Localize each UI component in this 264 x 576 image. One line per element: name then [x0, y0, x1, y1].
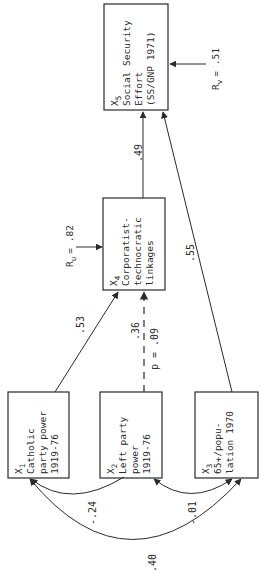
- x1-line-1: Catholic: [25, 428, 36, 474]
- coef-x1-x2: -.24: [87, 501, 98, 525]
- path-x3-x5: .55: [163, 112, 232, 392]
- x4-line-2: technocratic: [132, 217, 143, 286]
- x3-line-2: lation 1970: [224, 411, 235, 474]
- correlation-x1-x2: -.24: [31, 477, 124, 525]
- svg-text:Rv= .51: Rv= .51: [210, 48, 224, 90]
- x4-line-1: Corporatist-: [120, 217, 131, 286]
- svg-text:Ru= .82: Ru= .82: [64, 225, 78, 267]
- coef-x1-x3: .40: [147, 554, 158, 572]
- coef-x1-x4: .53: [75, 316, 86, 334]
- pvalue-x2-x4: p = .09: [149, 328, 160, 370]
- x2-line-1: Left party: [117, 417, 128, 474]
- node-x2: X2 Left party power 1919-76: [100, 392, 162, 478]
- path-x4-x5: .49: [133, 112, 144, 198]
- path-x1-x4: .53: [55, 292, 118, 392]
- residual-rv: Rv= .51: [170, 48, 224, 90]
- x3-line-1: 65+/popu-: [212, 423, 223, 474]
- ru-value: = .82: [64, 225, 75, 254]
- x5-line-1: Social Security: [121, 20, 132, 106]
- node-x3: X3 65+/popu- lation 1970: [195, 392, 258, 478]
- ru-sub: u: [69, 257, 78, 262]
- residual-ru: Ru= .82: [64, 225, 102, 267]
- coef-x2-x3: -.01: [187, 501, 198, 525]
- x1-line-3: 1919-76: [49, 434, 60, 474]
- coef-x4-x5: .49: [133, 144, 144, 162]
- x4-line-3: linkages: [144, 240, 155, 286]
- path-diagram: X5 Social Security Effort (SS/GNP 1971) …: [0, 0, 264, 576]
- node-x5: X5 Social Security Effort (SS/GNP 1971): [104, 4, 168, 110]
- rv-sub: v: [215, 79, 224, 84]
- x1-line-2: party power: [37, 411, 48, 474]
- correlation-x2-x3: -.01: [154, 479, 232, 525]
- coef-x2-x4: .36: [130, 322, 141, 340]
- coef-x3-x5: .55: [185, 244, 196, 262]
- node-x1: X1 Catholic party power 1919-76: [8, 392, 69, 478]
- node-x4: X4 Corporatist- technocratic linkages: [103, 198, 165, 290]
- rv-value: = .51: [210, 48, 221, 77]
- x5-line-3: (SS/GNP 1971): [145, 32, 156, 106]
- x5-line-2: Effort: [133, 72, 144, 106]
- x2-line-2: power: [129, 445, 140, 474]
- path-x2-x4: .36 p = .09: [130, 292, 160, 392]
- x2-line-3: 1919-76: [141, 434, 152, 474]
